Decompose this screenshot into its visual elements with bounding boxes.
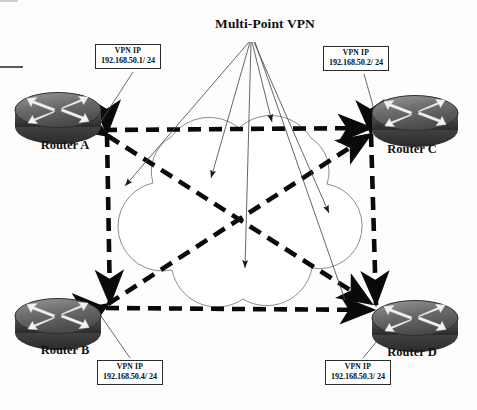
page-title: Multi-Point VPN bbox=[185, 16, 345, 32]
router-a-icon[interactable] bbox=[15, 93, 101, 145]
vpn-ip-box-router-b: VPN IP 192.168.50.4/ 24 bbox=[97, 360, 163, 385]
tunnel-router-a-router-b bbox=[107, 134, 110, 304]
vpn-ip-box-address: 192.168.50.2/ 24 bbox=[329, 58, 383, 67]
ip-leader-router-a bbox=[100, 72, 133, 123]
vpn-ip-box-address: 192.168.50.4/ 24 bbox=[103, 372, 157, 381]
router-c-icon[interactable] bbox=[372, 96, 458, 148]
router-b-label: Router B bbox=[10, 343, 120, 358]
vpn-ip-box-router-c: VPN IP 192.168.50.2/ 24 bbox=[323, 46, 389, 71]
vpn-ip-box-title: VPN IP bbox=[103, 363, 157, 372]
vpn-ip-box-router-d: VPN IP 192.168.50.3/ 24 bbox=[325, 360, 391, 385]
vpn-ip-box-router-a: VPN IP 192.168.50.1/ 24 bbox=[95, 44, 161, 69]
router-a-label: Router A bbox=[10, 138, 120, 153]
tunnel-router-a-router-c bbox=[104, 128, 372, 130]
vpn-ip-box-title: VPN IP bbox=[329, 49, 383, 58]
vpn-ip-box-title: VPN IP bbox=[331, 363, 385, 372]
vpn-cloud bbox=[118, 116, 362, 307]
router-d-label: Router D bbox=[357, 345, 467, 360]
diagram-page: Multi-Point VPN Router A Router C Router… bbox=[0, 0, 477, 410]
tunnel-router-c-router-d bbox=[371, 134, 376, 305]
vpn-ip-box-title: VPN IP bbox=[101, 47, 155, 56]
vpn-ip-box-address: 192.168.50.1/ 24 bbox=[101, 56, 155, 65]
vpn-ip-box-address: 192.168.50.3/ 24 bbox=[331, 372, 385, 381]
router-c-label: Router C bbox=[357, 142, 467, 157]
tunnel-router-b-router-d bbox=[106, 308, 374, 310]
